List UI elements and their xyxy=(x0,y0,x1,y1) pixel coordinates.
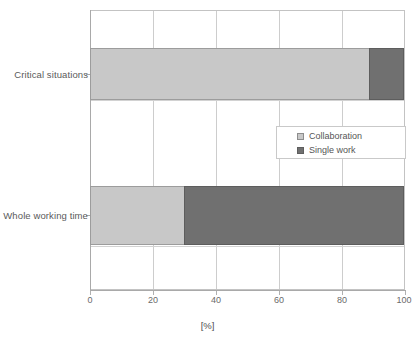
x-axis-label-80: 80 xyxy=(337,295,347,305)
bar-row-critical-situations xyxy=(90,48,405,100)
category-label-whole-working-time: Whole working time xyxy=(3,210,88,221)
legend-label-single-work: Single work xyxy=(309,146,356,155)
x-axis-label-40: 40 xyxy=(211,295,221,305)
legend-label-collaboration: Collaboration xyxy=(309,132,362,141)
x-axis-label-100: 100 xyxy=(396,295,411,305)
gridline-horizontal-2 xyxy=(91,100,404,101)
x-axis-label-20: 20 xyxy=(148,295,158,305)
gridline-horizontal-4 xyxy=(91,246,404,247)
chart-legend: Collaboration Single work xyxy=(276,126,406,159)
bar-segment-collaboration xyxy=(90,48,370,100)
x-axis-label-0: 0 xyxy=(87,295,92,305)
legend-swatch-collaboration-icon xyxy=(297,133,304,140)
bar-segment-collaboration xyxy=(90,186,185,245)
legend-item-collaboration: Collaboration xyxy=(297,130,405,143)
x-axis-label-60: 60 xyxy=(274,295,284,305)
bar-segment-single-work xyxy=(369,48,404,100)
bar-row-whole-working-time xyxy=(90,186,405,245)
category-label-critical-situations: Critical situations xyxy=(14,69,88,80)
stacked-bar-chart: Critical situations Whole working time 0… xyxy=(0,0,415,342)
bar-segment-single-work xyxy=(184,186,405,245)
legend-item-single-work: Single work xyxy=(297,144,405,157)
x-axis-line xyxy=(90,290,406,291)
x-axis-title: [%] xyxy=(0,320,415,331)
legend-swatch-single-work-icon xyxy=(297,147,304,154)
